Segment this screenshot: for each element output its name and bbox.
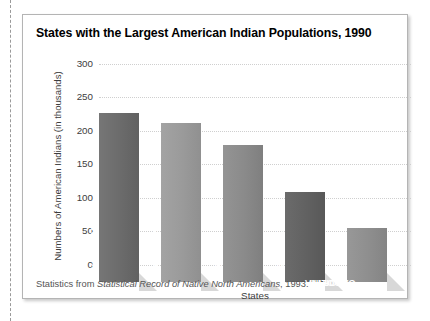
x-axis-title: States	[99, 290, 411, 301]
bar-label-arizona: ARIZONA	[223, 266, 263, 277]
chart-card: States with the Largest American Indian …	[22, 14, 408, 299]
page-cut-line	[10, 0, 11, 321]
y-tick-label: 300	[67, 59, 93, 69]
y-axis-title: Numbers of American Indians (in thousand…	[51, 50, 65, 282]
bar-label-text: OKLAHOMA	[88, 237, 99, 277]
bar-shadow	[387, 273, 405, 291]
bar-new-mexico[interactable]: NEW MEXICO	[285, 192, 325, 282]
bar-oklahoma[interactable]: OKLAHOMA	[99, 113, 139, 282]
bar-label-new-mexico: NEW MEXICO	[285, 266, 325, 277]
bar-label-text: ARIZONA	[212, 237, 223, 277]
bar-north-carolina[interactable]: NORTH CAROLINA	[347, 228, 387, 282]
y-tick-label: 200	[67, 126, 93, 136]
plot-area: Numbers of American Indians (in thousand…	[67, 50, 411, 282]
bar-arizona[interactable]: ARIZONA	[223, 145, 263, 282]
bar-label-text-line2: CAROLINA	[304, 277, 355, 289]
bar-label-california: CALIFORNIA	[161, 266, 201, 277]
bar-label-text: CALIFORNIA	[150, 237, 161, 277]
bar-label-text: NEW MEXICO	[274, 237, 285, 277]
source-prefix: Statistics from	[36, 279, 97, 289]
bar-label-oklahoma: OKLAHOMA	[99, 266, 139, 277]
bars-area: OKLAHOMA CALIFORNIA ARIZONA	[99, 50, 411, 282]
source-note: Statistics from Statistical Record of Na…	[36, 279, 308, 289]
y-tick-label: 250	[67, 92, 93, 102]
source-title: Statistical Record of Native North Ameri…	[97, 279, 280, 289]
y-tick-label: 150	[67, 159, 93, 169]
bar-california[interactable]: CALIFORNIA	[161, 123, 201, 282]
page-title: States with the Largest American Indian …	[36, 26, 372, 40]
y-tick-label: 100	[67, 193, 93, 203]
source-suffix: , 1993.	[280, 279, 308, 289]
